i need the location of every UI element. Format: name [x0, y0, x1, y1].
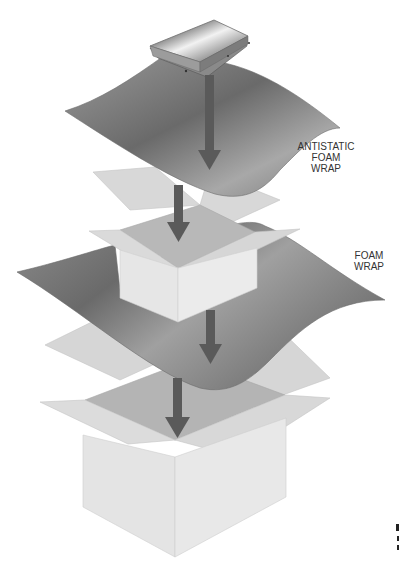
label-line: FOAM [344, 250, 394, 261]
label-line: ANTISTATIC [290, 141, 362, 152]
page-edge-mark [396, 524, 399, 531]
packing-diagram [0, 0, 403, 565]
foam-wrap-label: FOAM WRAP [344, 250, 394, 272]
page-edge-mark [397, 545, 399, 550]
label-line: FOAM [290, 152, 362, 163]
label-line: WRAP [344, 261, 394, 272]
label-line: WRAP [290, 163, 362, 174]
page-edge-mark [397, 536, 399, 541]
antistatic-foam-wrap-label: ANTISTATIC FOAM WRAP [290, 141, 362, 174]
